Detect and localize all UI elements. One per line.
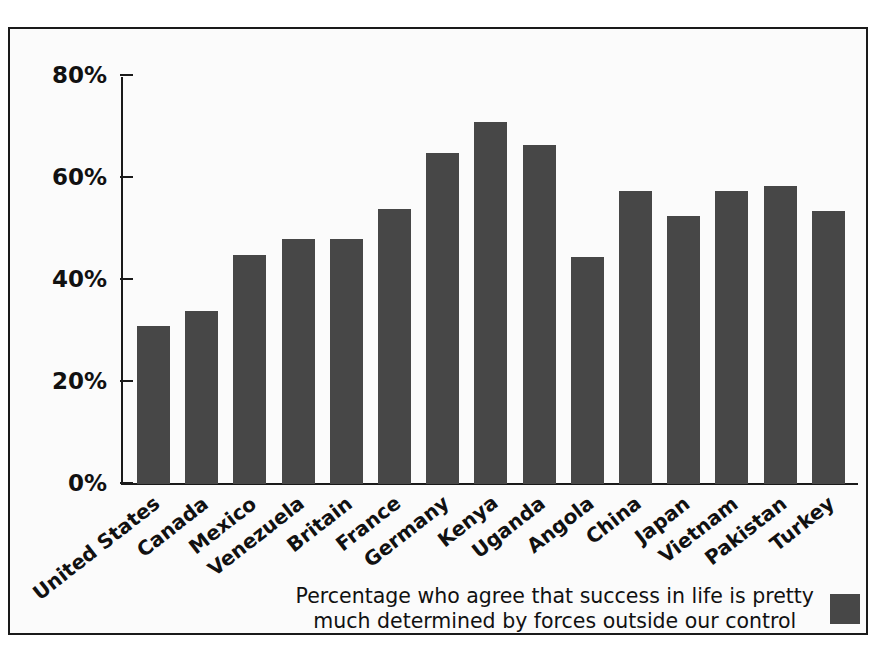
y-tick-label: 40% <box>52 266 107 292</box>
bar-angola <box>571 257 604 484</box>
bar-uganda <box>523 145 556 484</box>
bar-japan <box>667 216 700 484</box>
bar-vietnam <box>715 191 748 484</box>
bar-mexico <box>233 255 266 485</box>
bar-france <box>378 209 411 484</box>
chart-legend: Percentage who agree that success in lif… <box>220 584 860 634</box>
bar-pakistan <box>764 186 797 484</box>
bar-venezuela <box>282 239 315 484</box>
y-tick-label: 60% <box>52 164 107 190</box>
y-tick-label: 20% <box>52 368 107 394</box>
legend-color-swatch <box>830 594 860 624</box>
x-axis-category-labels: United StatesCanadaMexicoVenezuelaBritai… <box>123 491 863 591</box>
bar-germany <box>426 153 459 485</box>
bar-series <box>123 53 858 484</box>
bar-united-states <box>137 326 170 484</box>
bar-canada <box>185 311 218 484</box>
y-tick-label: 80% <box>52 62 107 88</box>
legend-label: Percentage who agree that success in lif… <box>296 584 814 634</box>
plot-area: 0%20%40%60%80% <box>121 53 860 487</box>
bar-britain <box>330 239 363 484</box>
bar-china <box>619 191 652 484</box>
bar-turkey <box>812 211 845 484</box>
chart-figure: 0%20%40%60%80% United StatesCanadaMexico… <box>8 27 868 635</box>
legend-label-line-2: much determined by forces outside our co… <box>313 609 796 633</box>
legend-label-line-1: Percentage who agree that success in lif… <box>296 584 814 608</box>
y-tick-label: 0% <box>68 470 107 496</box>
bar-kenya <box>474 122 507 484</box>
